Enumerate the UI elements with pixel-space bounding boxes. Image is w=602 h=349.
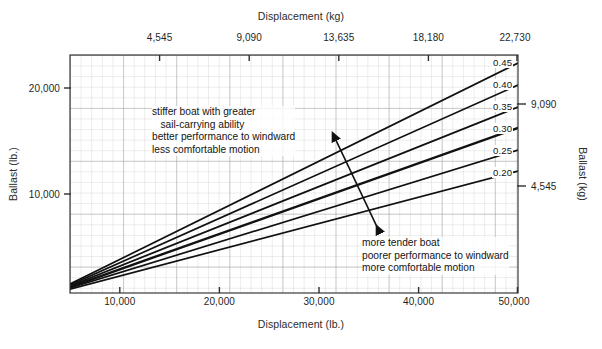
- left-tick-label-20000: 20,000: [8, 83, 60, 94]
- curve-label-040: 0.40: [492, 79, 513, 90]
- top-tick-label-2: 9,090: [236, 32, 262, 43]
- chart-root: Displacement (kg) Displacement (lb.) Bal…: [0, 0, 602, 349]
- top-tick-label-1: 4,545: [147, 32, 173, 43]
- bottom-tick-label-4: 40,000: [403, 296, 434, 307]
- curve-label-025: 0.25: [492, 145, 513, 156]
- curve-label-035: 0.35: [492, 101, 513, 112]
- bottom-tick-label-5: 50,000: [498, 296, 529, 307]
- annotation-stiffer-boat: stiffer boat with greater sail-carrying …: [152, 106, 295, 156]
- curve-label-030: 0.30: [492, 123, 513, 134]
- top-tick-label-5: 22,730: [499, 32, 530, 43]
- right-tick-label-9090: 9,090: [531, 99, 557, 110]
- right-tick-label-4545: 4,545: [531, 181, 557, 192]
- bottom-tick-label-1: 10,000: [104, 296, 135, 307]
- curve-label-020: 0.20: [492, 167, 513, 178]
- curve-label-045: 0.45: [492, 57, 513, 68]
- annotation-tender-boat: more tender boat poorer performance to w…: [362, 237, 509, 275]
- bottom-tick-label-3: 30,000: [303, 296, 334, 307]
- left-tick-label-10000: 10,000: [8, 189, 60, 200]
- top-tick-label-3: 13,635: [323, 32, 354, 43]
- bottom-tick-label-2: 20,000: [204, 296, 235, 307]
- top-tick-label-4: 18,180: [413, 32, 444, 43]
